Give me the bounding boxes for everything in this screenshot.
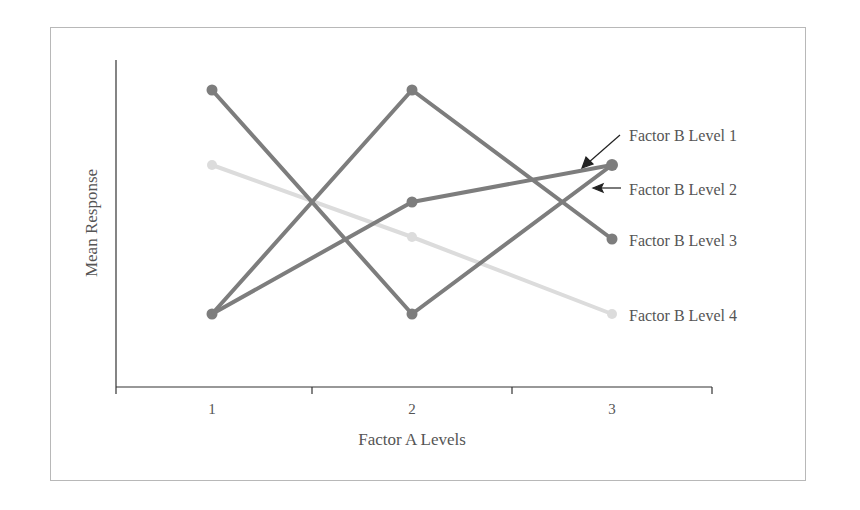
y-axis-title: Mean Response — [82, 169, 101, 277]
legend-label-level-2: Factor B Level 2 — [629, 181, 737, 198]
x-axis-title: Factor A Levels — [358, 430, 466, 449]
legend-label-level-3: Factor B Level 3 — [629, 232, 737, 249]
x-tick-label-3: 3 — [608, 401, 616, 417]
x-axis-ticks — [116, 387, 712, 394]
x-tick-label-2: 2 — [408, 401, 416, 417]
legend-label-level-1: Factor B Level 1 — [629, 127, 737, 144]
arrow-level-2 — [593, 184, 621, 192]
legend-label-level-4: Factor B Level 4 — [629, 307, 737, 324]
series-level-4 — [207, 160, 617, 319]
x-tick-label-1: 1 — [208, 401, 216, 417]
interaction-plot: 1 2 3 Factor A Levels Mean Response — [0, 0, 860, 510]
